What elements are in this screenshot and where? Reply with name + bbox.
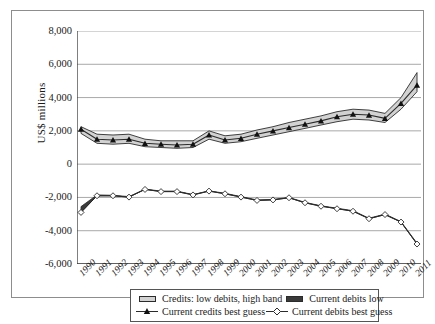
y-axis-tick-labels: 8,0006,0004,0002,0000-2,000-4,000-6,000 bbox=[20, 31, 72, 264]
y-tick-label: 8,000 bbox=[26, 26, 72, 36]
chart-figure: US$ millions 8,0006,0004,0002,0000-2,000… bbox=[0, 0, 435, 324]
figure-frame: US$ millions 8,0006,0004,0002,0000-2,000… bbox=[11, 10, 424, 298]
legend-label-debits-low: Current debits low bbox=[309, 294, 383, 304]
y-tick-label: 0 bbox=[26, 159, 72, 169]
credits-band bbox=[81, 73, 417, 149]
debits-marker bbox=[254, 197, 260, 203]
diamond-marker-icon bbox=[265, 306, 289, 317]
debits-marker bbox=[174, 189, 180, 195]
legend-item-debits-low: Current debits low bbox=[282, 293, 383, 304]
gridlines bbox=[77, 31, 421, 264]
y-tick-label: 4,000 bbox=[26, 93, 72, 103]
debits-marker bbox=[238, 194, 244, 200]
debits-marker bbox=[158, 189, 164, 195]
legend-item-credits-band: Credits: low debits, high band bbox=[135, 293, 282, 304]
legend-row-2: Current credits best guess Current debit… bbox=[135, 305, 374, 318]
debits-marker bbox=[334, 206, 340, 212]
debits-marker bbox=[286, 195, 292, 201]
band-dark-swatch-icon bbox=[282, 293, 306, 304]
debits-marker bbox=[222, 191, 228, 197]
debits-marker bbox=[318, 203, 324, 209]
y-tick-label: -2,000 bbox=[26, 192, 72, 202]
series-layer bbox=[78, 73, 420, 247]
legend-label-credits-best: Current credits best guess bbox=[162, 307, 265, 317]
axis-lines bbox=[77, 31, 421, 264]
y-tick-label: -4,000 bbox=[26, 226, 72, 236]
plot-area bbox=[77, 31, 421, 264]
chart-legend: Credits: low debits, high band Current d… bbox=[130, 289, 379, 322]
debits-marker bbox=[350, 208, 356, 214]
triangle-marker-icon bbox=[135, 306, 159, 317]
debits-marker bbox=[366, 216, 372, 222]
debits-marker bbox=[142, 186, 148, 192]
legend-label-credits-band: Credits: low debits, high band bbox=[162, 294, 282, 304]
legend-item-debits-best: Current debits best guess bbox=[265, 306, 392, 317]
debits-marker bbox=[126, 194, 132, 200]
debits-marker bbox=[302, 200, 308, 206]
y-tick-label: -6,000 bbox=[26, 259, 72, 269]
legend-row-1: Credits: low debits, high band Current d… bbox=[135, 292, 374, 305]
legend-item-credits-best: Current credits best guess bbox=[135, 306, 265, 317]
y-tick-label: 6,000 bbox=[26, 59, 72, 69]
debits-marker bbox=[382, 212, 388, 218]
y-tick-label: 2,000 bbox=[26, 126, 72, 136]
debits-marker bbox=[206, 188, 212, 194]
legend-label-debits-best: Current debits best guess bbox=[292, 307, 392, 317]
band-light-swatch-icon bbox=[135, 293, 159, 304]
chart-canvas bbox=[77, 31, 421, 264]
